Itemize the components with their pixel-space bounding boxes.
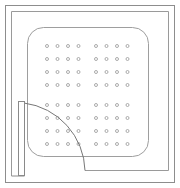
perforation-hole: [95, 71, 98, 74]
perforation-hole: [126, 104, 129, 107]
perforation-hole: [77, 45, 80, 48]
perforation-hole: [56, 84, 59, 87]
door-swing-arc: [24, 103, 85, 171]
perforation-hole: [46, 84, 49, 87]
perforation-hole: [116, 71, 119, 74]
perforation-hole: [116, 130, 119, 133]
perforation-hole: [46, 130, 49, 133]
perforation-hole: [67, 130, 70, 133]
perforation-hole: [56, 104, 59, 107]
perforation-hole: [67, 58, 70, 61]
perforation-grid: [46, 45, 130, 146]
perforation-hole: [46, 71, 49, 74]
perforation-hole: [105, 58, 108, 61]
perforation-hole: [77, 71, 80, 74]
perforation-hole: [105, 45, 108, 48]
perforation-hole: [67, 45, 70, 48]
perforation-hole: [77, 58, 80, 61]
perforation-hole: [56, 45, 59, 48]
perforation-hole: [67, 104, 70, 107]
perforation-hole: [126, 117, 129, 120]
perforation-hole: [56, 71, 59, 74]
perforation-hole: [95, 45, 98, 48]
perforation-hole: [95, 58, 98, 61]
perforation-hole: [105, 71, 108, 74]
perforation-hole: [95, 104, 98, 107]
perforation-hole: [46, 104, 49, 107]
inner-wall-frame: [12, 12, 169, 171]
perforation-hole: [56, 143, 59, 146]
drawing-canvas: [0, 0, 180, 188]
door-leaf: [19, 102, 25, 176]
perforation-hole: [116, 117, 119, 120]
perforation-hole: [126, 45, 129, 48]
perforation-hole: [105, 130, 108, 133]
perforation-hole: [67, 117, 70, 120]
perforation-hole: [46, 143, 49, 146]
line-drawing-svg: [0, 0, 180, 188]
perforation-hole: [126, 84, 129, 87]
perforation-hole: [46, 45, 49, 48]
perforation-hole: [126, 130, 129, 133]
perforation-hole: [126, 58, 129, 61]
perforation-hole: [95, 130, 98, 133]
perforation-hole: [77, 104, 80, 107]
perforation-hole: [67, 84, 70, 87]
perforation-hole: [105, 104, 108, 107]
outer-wall-frame: [6, 6, 175, 183]
perforation-hole: [116, 58, 119, 61]
perforation-hole: [56, 58, 59, 61]
perforation-hole: [95, 84, 98, 87]
perforation-hole: [116, 84, 119, 87]
perforation-hole: [46, 117, 49, 120]
perforation-hole: [126, 71, 129, 74]
perforation-hole: [126, 143, 129, 146]
perforation-hole: [116, 45, 119, 48]
perforation-hole: [77, 117, 80, 120]
perforation-hole: [77, 130, 80, 133]
perforation-hole: [116, 143, 119, 146]
perforation-hole: [77, 84, 80, 87]
perforation-hole: [105, 143, 108, 146]
perforation-hole: [56, 130, 59, 133]
perforation-hole: [95, 143, 98, 146]
perforation-hole: [116, 104, 119, 107]
perforation-hole: [67, 143, 70, 146]
perforation-hole: [46, 58, 49, 61]
perforation-hole: [95, 117, 98, 120]
perforation-hole: [105, 84, 108, 87]
perforation-hole: [105, 117, 108, 120]
perforation-hole: [67, 71, 70, 74]
